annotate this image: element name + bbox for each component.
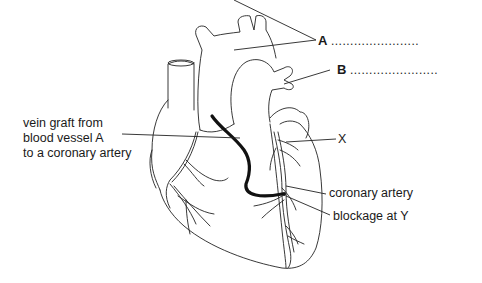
- left-atrium: [270, 108, 309, 138]
- answer-blank-b[interactable]: .......................: [350, 63, 438, 77]
- label-blockage: blockage at Y: [333, 209, 409, 224]
- blockage-y: [282, 192, 286, 196]
- label-a: A .......................: [318, 33, 419, 49]
- vein-graft-line-2: blood vessel A: [23, 131, 131, 146]
- leader-blockage: [286, 196, 330, 215]
- pulmonary-artery: [231, 60, 293, 124]
- right-atrium: [152, 100, 168, 190]
- label-b: B .......................: [337, 62, 438, 78]
- vein-graft: [212, 116, 282, 196]
- vein-graft-line-1: vein graft from: [23, 116, 131, 131]
- label-a-letter: A: [318, 33, 327, 48]
- aorta: [196, 15, 276, 130]
- label-x: X: [338, 132, 346, 147]
- answer-blank-a[interactable]: .......................: [331, 34, 419, 48]
- leader-a: [234, 0, 316, 40]
- label-coronary-artery: coronary artery: [329, 186, 413, 201]
- label-b-letter: B: [337, 62, 346, 77]
- heart-outline: [160, 121, 322, 268]
- label-vein-graft: vein graft from blood vessel A to a coro…: [23, 116, 131, 161]
- vein-graft-line-3: to a coronary artery: [23, 146, 131, 161]
- leader-coronary: [286, 186, 326, 194]
- leader-b: [284, 70, 330, 84]
- vena-cava: [168, 61, 194, 110]
- leader-graft: [122, 134, 240, 138]
